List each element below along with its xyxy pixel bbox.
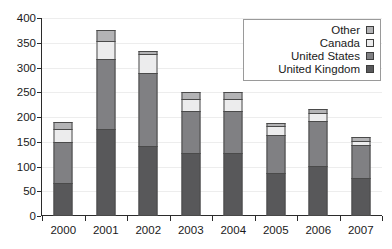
bar-segment[interactable] [54,183,73,216]
bar-segment[interactable] [224,153,243,216]
y-axis-label: 250 [0,86,36,98]
stacked-bar-chart: 050100150200250300350400 200020012002200… [0,0,392,249]
stacked-bar[interactable] [266,123,285,216]
legend-item-canada[interactable]: Canada [250,37,374,49]
legend-swatch-canada [366,39,374,47]
stacked-bar[interactable] [96,30,115,216]
y-axis-label: 0 [0,210,36,222]
x-axis-label: 2000 [42,224,85,237]
x-axis-tick [127,216,128,221]
x-axis-tick [85,216,86,221]
x-axis-label: 2005 [255,224,298,237]
bar-segment[interactable] [351,178,370,216]
bar-group [170,18,213,216]
bar-segment[interactable] [96,41,115,59]
y-axis-label: 200 [0,111,36,123]
bar-segment[interactable] [181,111,200,155]
y-axis-label: 150 [0,136,36,148]
y-axis-label: 50 [0,185,36,197]
stacked-bar[interactable] [224,92,243,216]
x-axis-tick [212,216,213,221]
legend-swatch-other [366,26,374,34]
x-axis-label: 2001 [85,224,128,237]
bar-group [85,18,128,216]
x-axis-tick [170,216,171,221]
bar-segment[interactable] [54,142,73,184]
stacked-bar[interactable] [351,137,370,216]
bar-group [127,18,170,216]
x-axis-label: 2004 [212,224,255,237]
y-axis-tick [37,216,41,217]
x-axis-ticks [42,216,382,221]
bar-group [42,18,85,216]
y-axis-label: 100 [0,161,36,173]
bar-segment[interactable] [139,54,158,74]
legend-item-united-states[interactable]: United States [250,50,374,62]
y-axis-label: 400 [0,12,36,24]
legend-label-other: Other [331,24,360,36]
x-axis-label: 2002 [127,224,170,237]
bar-segment[interactable] [224,111,243,154]
x-axis-tick [382,216,383,221]
stacked-bar[interactable] [309,109,328,216]
legend-item-united-kingdom[interactable]: United Kingdom [250,63,374,75]
bar-segment[interactable] [351,145,370,179]
legend-label-united-states: United States [291,50,360,62]
legend-swatch-united-states [366,52,374,60]
x-axis-tick [340,216,341,221]
bar-segment[interactable] [309,166,328,216]
legend-label-united-kingdom: United Kingdom [278,63,360,75]
y-axis-label: 300 [0,62,36,74]
stacked-bar[interactable] [54,122,73,216]
x-axis-label: 2007 [340,224,383,237]
legend-label-canada: Canada [320,37,360,49]
chart-legend: Other Canada United States United Kingdo… [243,19,381,81]
bar-segment[interactable] [96,59,115,131]
x-axis-tick [255,216,256,221]
legend-swatch-united-kingdom [366,65,374,73]
bar-segment[interactable] [54,129,73,143]
x-axis-tick [42,216,43,221]
stacked-bar[interactable] [181,92,200,216]
legend-item-other[interactable]: Other [250,24,374,36]
x-axis: 20002001200220032004200520062007 [42,224,382,240]
bar-segment[interactable] [309,121,328,167]
x-axis-label: 2006 [297,224,340,237]
bar-segment[interactable] [139,73,158,147]
bar-segment[interactable] [139,146,158,216]
bar-segment[interactable] [181,153,200,216]
bar-segment[interactable] [266,173,285,216]
bar-segment[interactable] [96,129,115,216]
x-axis-tick [297,216,298,221]
y-axis-label: 350 [0,37,36,49]
x-axis-label: 2003 [170,224,213,237]
bar-segment[interactable] [266,135,285,174]
stacked-bar[interactable] [139,51,158,216]
